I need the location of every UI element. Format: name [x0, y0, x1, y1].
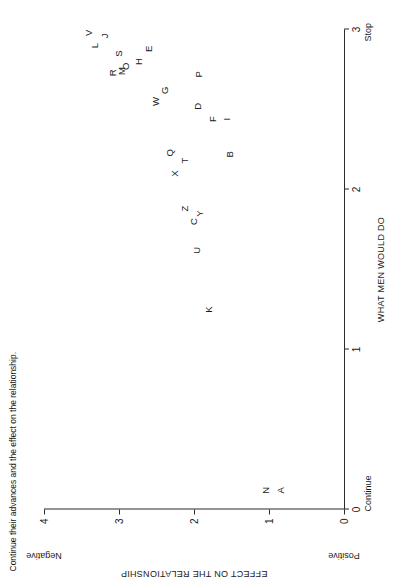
y-tick-label: 3 — [114, 518, 125, 524]
figure-caption: Continue their advances and the effect o… — [8, 11, 19, 571]
y-anchor-positive: Positive — [328, 550, 360, 560]
data-point-x: X — [168, 170, 179, 176]
data-point-l: L — [89, 42, 100, 47]
y-tick-label: 2 — [189, 518, 200, 524]
x-tick-label: 0 — [351, 506, 362, 512]
data-point-c: C — [187, 218, 198, 225]
data-point-z: Z — [179, 205, 190, 211]
x-tick-label: 2 — [351, 186, 362, 192]
data-point-a: A — [275, 487, 286, 493]
y-anchor-negative: Negative — [26, 550, 62, 560]
x-axis-title: WHAT MEN WOULD DO — [376, 29, 386, 509]
y-tick-label: 1 — [264, 518, 275, 524]
data-point-u: U — [191, 246, 202, 253]
x-anchor-continue: Continue — [363, 475, 373, 511]
y-tick-mark — [44, 509, 45, 514]
data-point-f: F — [207, 116, 218, 122]
x-tick-mark — [344, 508, 349, 509]
data-point-g: G — [159, 86, 170, 93]
data-point-d: D — [192, 102, 203, 109]
data-point-p: P — [192, 71, 203, 77]
data-point-k: K — [202, 306, 213, 312]
x-tick-mark — [344, 188, 349, 189]
x-tick-label: 1 — [351, 346, 362, 352]
y-tick-mark — [344, 509, 345, 514]
y-tick-label: 0 — [339, 518, 350, 524]
data-point-b: B — [224, 151, 235, 157]
data-point-h: H — [132, 58, 143, 65]
rotated-figure-canvas: Continue their advances and the effect o… — [0, 0, 406, 577]
data-point-n: N — [260, 486, 271, 493]
data-point-y: Y — [194, 210, 205, 216]
data-point-r: R — [106, 69, 117, 76]
data-point-i: I — [221, 117, 232, 120]
figure-page: Continue their advances and the effect o… — [0, 0, 406, 577]
y-axis-title: EFFECT ON THE RELATIONSHIP — [121, 568, 268, 577]
scatter-plot-area: 01234 0123ContinueStop ANKUCYZBXTQIFDGWP… — [44, 29, 344, 509]
x-tick-mark — [344, 28, 349, 29]
x-anchor-stop: Stop — [363, 22, 373, 41]
data-point-w: W — [150, 97, 161, 106]
data-point-e: E — [142, 45, 153, 51]
data-point-t: T — [179, 157, 190, 163]
y-tick-mark — [194, 509, 195, 514]
data-point-j: J — [99, 33, 110, 38]
data-point-q: Q — [164, 149, 175, 156]
y-tick-mark — [269, 509, 270, 514]
y-tick-label: 4 — [39, 518, 50, 524]
data-point-m: M — [116, 67, 127, 75]
data-point-v: V — [82, 29, 93, 35]
y-tick-mark — [119, 509, 120, 514]
data-point-s: S — [112, 50, 123, 56]
x-tick-mark — [344, 348, 349, 349]
x-axis-line — [344, 29, 345, 509]
x-tick-label: 3 — [351, 26, 362, 32]
